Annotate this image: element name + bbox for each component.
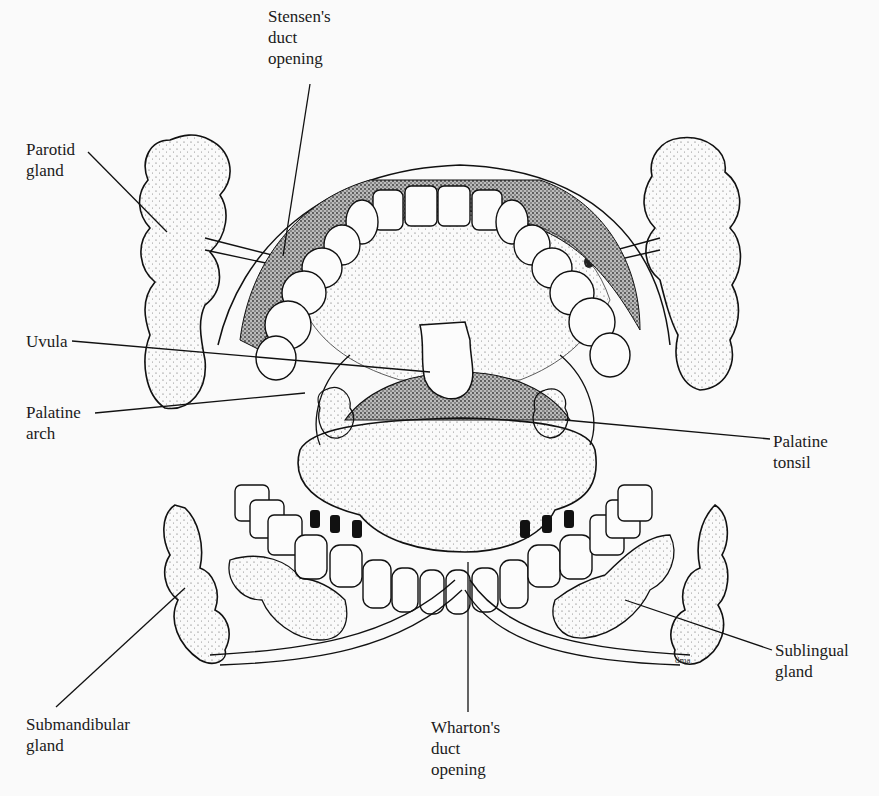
- label-uvula: Uvula: [26, 331, 68, 352]
- tongue: [298, 418, 596, 552]
- parotid-gland-left: [140, 135, 230, 408]
- label-whartons-duct-opening: Wharton's duct opening: [431, 717, 500, 780]
- label-palatine-arch: Palatine arch: [26, 402, 81, 444]
- label-submandibular-gland: Submandibular gland: [26, 714, 130, 756]
- label-stensens-duct-opening: Stensen's duct opening: [268, 6, 331, 69]
- label-palatine-tonsil: Palatine tonsil: [773, 431, 828, 473]
- sublingual-gland-left: [229, 556, 347, 640]
- parotid-gland-right: [644, 138, 740, 390]
- svg-text:dma: dma: [675, 655, 691, 665]
- submandibular-gland-right: [671, 505, 728, 664]
- label-parotid-gland: Parotid gland: [26, 139, 75, 181]
- oral-anatomy-diagram: dma Stensen's duct opening Parotid gland…: [0, 0, 879, 796]
- submandibular-gland-left: [164, 505, 229, 663]
- label-sublingual-gland: Sublingual gland: [775, 640, 849, 682]
- anatomy-illustration: dma: [0, 0, 879, 796]
